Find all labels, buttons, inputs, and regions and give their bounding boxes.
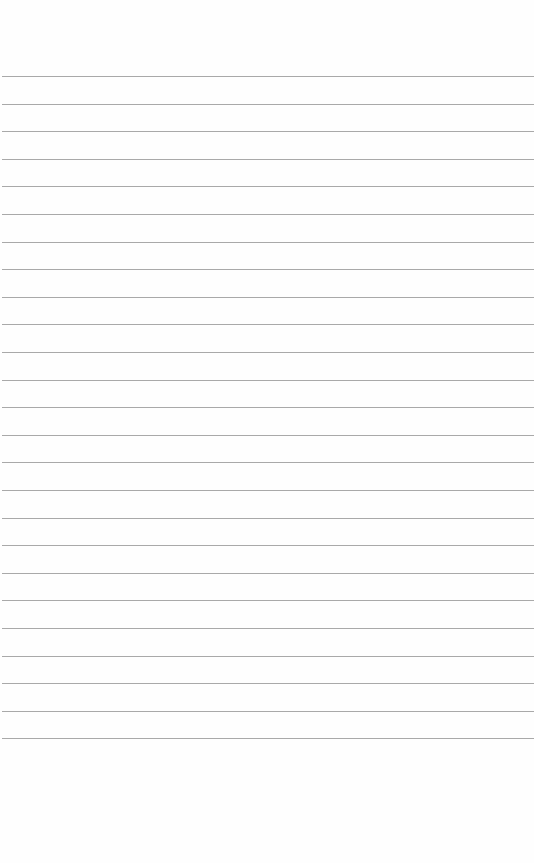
ruled-line [2,738,534,739]
ruled-line [2,683,534,684]
ruled-line [2,76,534,77]
ruled-line [2,518,534,519]
lined-paper-sheet [0,0,534,863]
ruled-line [2,242,534,243]
ruled-line [2,628,534,629]
ruled-line [2,600,534,601]
ruled-line [2,407,534,408]
ruled-line [2,269,534,270]
ruled-line [2,545,534,546]
ruled-line [2,214,534,215]
ruled-line [2,573,534,574]
ruled-line [2,131,534,132]
ruled-line [2,159,534,160]
ruled-line [2,711,534,712]
ruled-line [2,352,534,353]
ruled-line [2,186,534,187]
ruled-line [2,380,534,381]
ruled-line [2,490,534,491]
ruled-line [2,462,534,463]
ruled-line [2,104,534,105]
ruled-line [2,324,534,325]
ruled-line [2,656,534,657]
ruled-line [2,297,534,298]
ruled-line [2,435,534,436]
